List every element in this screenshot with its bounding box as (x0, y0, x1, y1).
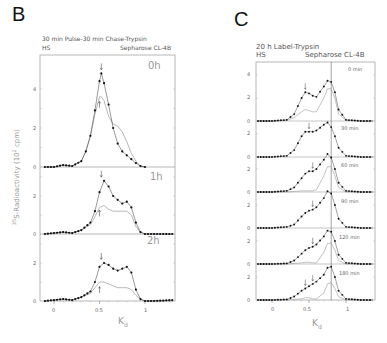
figure-plots (0, 0, 387, 343)
